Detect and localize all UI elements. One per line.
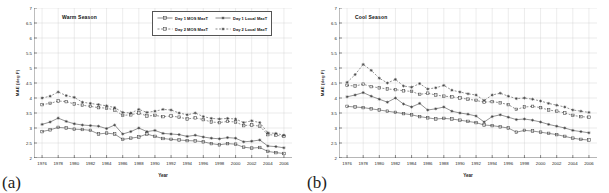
legend-item: Day 2 Local MaxT [215,26,267,32]
x-tick-label: 1976 [342,161,352,166]
x-tick-label: 1994 [487,161,497,166]
y-tick-label: 4 [335,96,337,101]
x-tick-label: 1978 [358,161,368,166]
x-tick-label: 1994 [182,161,192,166]
x-tick-label: 1986 [423,161,433,166]
figure-container: (a) MAE (deg F) Year Warm Season Day 1 M… [0,0,609,193]
x-tick-label: 1982 [86,161,96,166]
x-axis-label-cool: Year [339,173,597,178]
y-tick-label: 6.5 [331,21,337,26]
chart-svg-cool [339,8,597,158]
x-tick-label: 1982 [391,161,401,166]
y-tick-label: 5.5 [331,51,337,56]
plot-area-cool: MAE (deg F) Year Cool Season 22.533.544.… [339,8,597,158]
x-tick-label: 2000 [536,161,546,166]
legend-symbol-icon [215,15,231,21]
season-title-warm: Warm Season [62,14,97,20]
y-tick-label: 3 [335,126,337,131]
x-tick-label: 1998 [520,161,530,166]
x-tick-label: 2004 [568,161,578,166]
legend-label: Day 2 Local MaxT [233,27,267,32]
x-tick-label: 1992 [471,161,481,166]
x-tick-label: 1980 [375,161,385,166]
y-tick-label: 3.5 [331,111,337,116]
x-tick-label: 1988 [134,161,144,166]
y-tick-label: 2.5 [26,141,32,146]
y-tick-label: 5.5 [26,51,32,56]
legend-item: Day 1 MOS MaxT [157,15,208,21]
y-tick-label: 5 [335,66,337,71]
x-tick-label: 1984 [407,161,417,166]
x-tick-label: 1992 [166,161,176,166]
chart-legend: Day 1 MOS MaxTDay 1 Local MaxTDay 2 MOS … [152,11,272,36]
legend-label: Day 2 MOS MaxT [175,27,208,32]
x-tick-label: 1990 [150,161,160,166]
y-tick-label: 2 [30,156,32,161]
x-tick-label: 1986 [118,161,128,166]
legend-item: Day 2 MOS MaxT [157,26,208,32]
y-tick-label: 3 [30,126,32,131]
y-tick-label: 2 [335,156,337,161]
y-tick-label: 7 [30,6,32,11]
x-tick-label: 1990 [455,161,465,166]
x-tick-label: 1998 [215,161,225,166]
x-tick-label: 1976 [37,161,47,166]
y-tick-label: 6.5 [26,21,32,26]
y-axis-label-warm: MAE (deg F) [15,70,20,97]
x-tick-label: 1984 [102,161,112,166]
x-tick-label: 2006 [584,161,594,166]
x-tick-label: 1996 [199,161,209,166]
y-tick-label: 7 [335,6,337,11]
legend-symbol-icon [157,15,173,21]
x-tick-label: 2002 [552,161,562,166]
y-tick-label: 4.5 [26,81,32,86]
y-tick-label: 2.5 [331,141,337,146]
x-tick-label: 2000 [231,161,241,166]
x-tick-label: 1988 [439,161,449,166]
legend-label: Day 1 Local MaxT [233,16,267,21]
x-tick-label: 1978 [53,161,63,166]
x-tick-label: 2002 [247,161,257,166]
legend-symbol-icon [215,26,231,32]
legend-item: Day 1 Local MaxT [215,15,267,21]
season-title-cool: Cool Season [355,14,387,20]
panel-cool-season: (b) MAE (deg F) Year Cool Season 22.533.… [305,0,609,193]
y-tick-label: 6 [335,36,337,41]
x-tick-label: 2004 [263,161,273,166]
y-axis-label-cool: MAE (deg F) [320,70,325,97]
panel-warm-season: (a) MAE (deg F) Year Warm Season Day 1 M… [0,0,304,193]
legend-label: Day 1 MOS MaxT [175,16,208,21]
y-tick-label: 6 [30,36,32,41]
panel-tag-b: (b) [307,174,327,191]
legend-symbol-icon [157,26,173,32]
x-tick-label: 1980 [70,161,80,166]
y-tick-label: 5 [30,66,32,71]
y-tick-label: 3.5 [26,111,32,116]
y-tick-label: 4.5 [331,81,337,86]
x-tick-label: 2006 [279,161,289,166]
panel-tag-a: (a) [2,174,21,191]
x-axis-label-warm: Year [34,173,292,178]
plot-area-warm: MAE (deg F) Year Warm Season Day 1 MOS M… [34,8,292,158]
y-tick-label: 4 [30,96,32,101]
x-tick-label: 1996 [504,161,514,166]
